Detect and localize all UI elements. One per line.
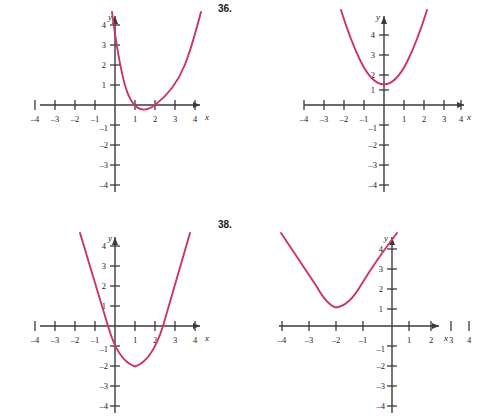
y-tick-label--1: –1 bbox=[376, 344, 386, 354]
y-tick-label-3: 3 bbox=[102, 40, 106, 50]
x-tick-label--2: –2 bbox=[70, 114, 80, 124]
x-tick-label-4: 4 bbox=[193, 114, 198, 124]
parabola-curve bbox=[80, 233, 190, 367]
x-tick-label-3: 3 bbox=[442, 114, 446, 124]
y-tick-label-1: 1 bbox=[379, 304, 383, 314]
y-tick-label-4: 4 bbox=[102, 20, 107, 30]
y-axis-arrow bbox=[112, 237, 118, 245]
x-tick-label--2: –2 bbox=[339, 114, 349, 124]
x-axis-label: x bbox=[466, 112, 471, 122]
graph-panel-38-left: –4 –3 –2 –1 1 2 3 4 4 3 2 1 –1 –2 –3 –4 … bbox=[0, 209, 239, 418]
x-tick-label--4: –4 bbox=[299, 114, 309, 124]
y-tick-label--4: –4 bbox=[99, 401, 109, 411]
y-tick-label-3: 3 bbox=[379, 264, 383, 274]
y-tick-label-4: 4 bbox=[371, 30, 376, 40]
x-tick-label--1: –1 bbox=[358, 335, 368, 345]
y-tick-label-1: 1 bbox=[371, 85, 375, 95]
x-axis-label: x bbox=[204, 112, 209, 122]
y-tick-label--1: –1 bbox=[99, 344, 109, 354]
x-tick-label-1: 1 bbox=[402, 114, 406, 124]
y-tick-label--1: –1 bbox=[368, 123, 378, 133]
x-tick-label-1: 1 bbox=[133, 114, 137, 124]
x-tick-label-4: 4 bbox=[459, 114, 464, 124]
y-axis-label: y bbox=[383, 233, 388, 243]
x-tick-label-1: 1 bbox=[133, 335, 137, 345]
x-axis-label: x bbox=[443, 333, 448, 343]
y-axis-label: y bbox=[107, 233, 112, 243]
y-axis-label: y bbox=[375, 12, 380, 22]
y-tick-label--4: –4 bbox=[376, 401, 386, 411]
x-tick-label-2: 2 bbox=[153, 114, 157, 124]
y-tick-label-3: 3 bbox=[102, 261, 106, 271]
x-tick-label--4: –4 bbox=[277, 335, 287, 345]
x-tick-label--2: –2 bbox=[70, 335, 80, 345]
y-axis-arrow bbox=[381, 16, 387, 24]
x-axis-arrow bbox=[432, 323, 439, 329]
y-tick-label--3: –3 bbox=[368, 160, 378, 170]
y-tick-label-1: 1 bbox=[102, 80, 106, 90]
x-tick-label-3: 3 bbox=[449, 335, 453, 345]
coordinate-plane-36-right: –4 –3 –2 –1 1 2 3 4 4 3 2 1 –1 –2 –3 –4 … bbox=[239, 0, 478, 209]
y-tick-label--2: –2 bbox=[99, 361, 109, 371]
graph-panel-38-right: –4 –3 –2 –1 1 2 3 4 4 3 2 1 –1 –2 –3 –4 … bbox=[239, 209, 478, 418]
x-tick-label--4: –4 bbox=[30, 335, 40, 345]
x-tick-label--4: –4 bbox=[30, 114, 40, 124]
x-tick-label-1: 1 bbox=[407, 335, 411, 345]
exercise-page: 36. 38. bbox=[0, 0, 478, 418]
x-tick-label--3: –3 bbox=[50, 114, 60, 124]
coordinate-plane-36-left: –4 –3 –2 –1 1 2 3 4 4 3 2 1 –1 –2 –3 –4 … bbox=[0, 0, 239, 209]
y-tick-label--4: –4 bbox=[99, 180, 109, 190]
y-tick-label--3: –3 bbox=[99, 381, 109, 391]
y-tick-label--2: –2 bbox=[368, 140, 378, 150]
x-axis-arrow bbox=[193, 102, 200, 108]
x-tick-label-2: 2 bbox=[422, 114, 426, 124]
parabola-curve bbox=[112, 12, 201, 110]
coordinate-plane-38-left: –4 –3 –2 –1 1 2 3 4 4 3 2 1 –1 –2 –3 –4 … bbox=[0, 209, 239, 418]
y-tick-label--4: –4 bbox=[368, 180, 378, 190]
x-tick-label--1: –1 bbox=[90, 335, 100, 345]
x-tick-label--1: –1 bbox=[359, 114, 369, 124]
y-tick-label-2: 2 bbox=[102, 60, 106, 70]
x-tick-label--3: –3 bbox=[50, 335, 60, 345]
x-tick-label--3: –3 bbox=[304, 335, 314, 345]
graph-panel-36-right: –4 –3 –2 –1 1 2 3 4 4 3 2 1 –1 –2 –3 –4 … bbox=[239, 0, 478, 209]
x-axis-arrow bbox=[193, 323, 200, 329]
graph-panel-36-left: –4 –3 –2 –1 1 2 3 4 4 3 2 1 –1 –2 –3 –4 … bbox=[0, 0, 239, 209]
y-tick-label-3: 3 bbox=[371, 50, 375, 60]
y-tick-label--3: –3 bbox=[376, 381, 386, 391]
x-tick-label--1: –1 bbox=[90, 114, 100, 124]
y-tick-label-2: 2 bbox=[379, 284, 383, 294]
coordinate-plane-38-right: –4 –3 –2 –1 1 2 3 4 4 3 2 1 –1 –2 –3 –4 … bbox=[239, 209, 478, 418]
x-tick-label-3: 3 bbox=[173, 114, 177, 124]
y-tick-label-4: 4 bbox=[102, 241, 107, 251]
y-tick-label--1: –1 bbox=[99, 123, 109, 133]
y-tick-label--2: –2 bbox=[376, 361, 386, 371]
x-axis-label: x bbox=[204, 333, 209, 343]
x-tick-label-4: 4 bbox=[467, 335, 472, 345]
x-tick-label-3: 3 bbox=[173, 335, 177, 345]
y-tick-label--2: –2 bbox=[99, 140, 109, 150]
x-tick-label-4: 4 bbox=[193, 335, 198, 345]
x-tick-label-2: 2 bbox=[429, 335, 433, 345]
y-tick-label--3: –3 bbox=[99, 160, 109, 170]
x-tick-label--3: –3 bbox=[319, 114, 329, 124]
x-tick-label--2: –2 bbox=[331, 335, 341, 345]
y-tick-label-2: 2 bbox=[102, 281, 106, 291]
